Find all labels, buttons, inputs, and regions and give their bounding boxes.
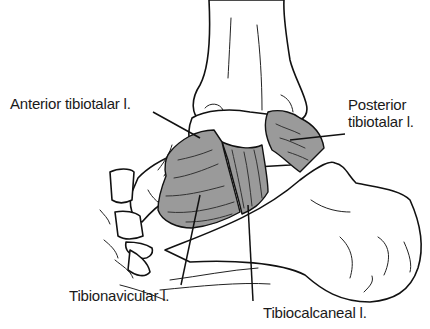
ankle-illustration [0,0,430,329]
label-posterior-tibiotalar: Posterior tibiotalar l. [348,96,414,130]
label-anterior-tibiotalar: Anterior tibiotalar l. [10,95,131,112]
label-posterior-line2: tibiotalar l. [348,113,414,130]
label-tibionavicular: Tibionavicular l. [69,287,169,304]
tibia-bone [193,0,307,120]
label-posterior-line1: Posterior [348,96,414,113]
anatomy-figure: Anterior tibiotalar l. Posterior tibiota… [0,0,430,329]
label-tibiocalcaneal: Tibiocalcaneal l. [263,304,367,321]
